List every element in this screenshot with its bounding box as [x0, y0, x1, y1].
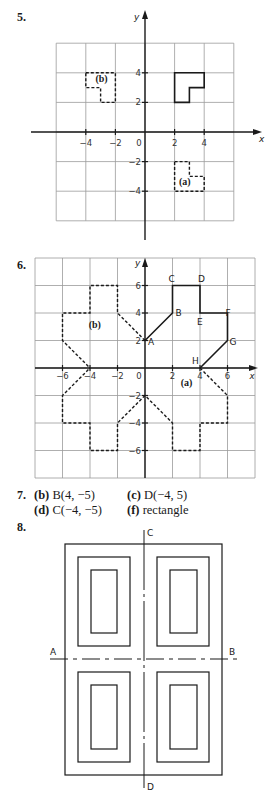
diagram-question-8: ABCD: [0, 0, 276, 795]
label-d: D: [147, 782, 154, 792]
answer-7f: (f) rectangle: [127, 503, 188, 518]
label-a: A: [50, 647, 57, 657]
inner-rectangle: [170, 570, 197, 633]
answer-7d: (d) C(−4, −5): [34, 503, 102, 518]
answer-text: rectangle: [143, 503, 189, 518]
answer-7b: (b) B(4, −5): [34, 488, 95, 503]
inner-rectangle: [91, 685, 117, 749]
answer-text: C(−4, −5): [52, 503, 102, 518]
answer-part-label: (d): [34, 503, 49, 517]
answer-7c: (c) D(−4, 5): [127, 488, 187, 503]
answer-part-label: (c): [127, 488, 141, 502]
answer-part-label: (b): [34, 488, 49, 502]
answer-text: B(4, −5): [52, 488, 94, 503]
answer-part-label: (f): [127, 503, 140, 517]
label-c: C: [147, 528, 153, 538]
answer-text: D(−4, 5): [144, 488, 187, 503]
label-b: B: [229, 647, 235, 657]
inner-rectangle: [91, 570, 117, 633]
inner-rectangle: [170, 685, 197, 749]
